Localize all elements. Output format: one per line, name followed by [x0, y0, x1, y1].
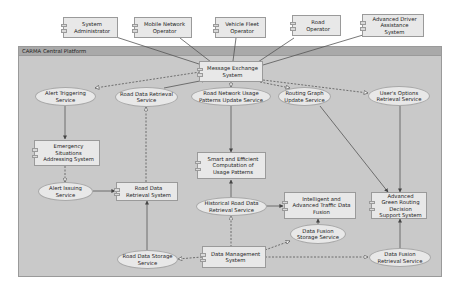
line-mno-mes	[180, 38, 211, 62]
line-dms-fusionstorage	[265, 241, 290, 250]
line-sysadmin-mes	[116, 37, 199, 64]
component-port-icon	[197, 68, 203, 72]
component-port-icon	[32, 155, 38, 159]
actor-system-administrator[interactable]: System Administrator	[63, 17, 118, 38]
service-alert-triggering[interactable]: Alert Triggering Service	[35, 87, 96, 106]
component-intelligent-traffic-data-fusion[interactable]: Intelligent and Advanced Traffic Data Fu…	[284, 192, 356, 219]
component-port-icon	[290, 27, 296, 31]
component-emergency-situations-addressing-system[interactable]: Emergency Situations Addressing System	[34, 140, 100, 166]
component-port-icon	[200, 253, 206, 257]
line-adas-mes	[263, 35, 363, 65]
service-data-fusion-storage[interactable]: Data Fusion Storage Service	[290, 224, 346, 244]
service-road-network-usage-patterns-update[interactable]: Road Network Usage Patterns Update Servi…	[191, 87, 271, 106]
service-users-options-retrieval[interactable]: User's Options Retrieval Service	[368, 86, 430, 106]
line-routinggraph-green	[320, 106, 388, 192]
component-advanced-green-routing-dss[interactable]: Advanced Green Routing Decision Support …	[371, 192, 427, 219]
component-port-icon	[114, 193, 120, 197]
line-roadop-mes	[258, 38, 294, 62]
component-port-icon	[282, 201, 288, 205]
component-port-icon	[282, 208, 288, 212]
actor-road-operator[interactable]: Road Operator	[292, 15, 341, 36]
component-port-icon	[360, 27, 366, 31]
component-port-icon	[61, 29, 67, 33]
component-port-icon	[213, 24, 219, 28]
component-port-icon	[132, 29, 138, 33]
line-mes-alerttrig	[95, 72, 200, 88]
service-alert-issuing[interactable]: Alert Issuing Service	[38, 182, 93, 201]
service-road-data-storage[interactable]: Road Data Storage Service	[117, 250, 178, 269]
component-port-icon	[132, 24, 138, 28]
component-port-icon	[360, 21, 366, 25]
component-port-icon	[213, 29, 219, 33]
component-port-icon	[197, 73, 203, 77]
service-historical-road-data-retrieval[interactable]: Historical Road Data Retrieval Service	[196, 197, 267, 216]
service-road-data-retrieval[interactable]: Road Data Retrieval Service	[115, 87, 178, 107]
component-message-exchange-system[interactable]: Message Exchange System	[199, 61, 263, 82]
component-port-icon	[114, 188, 120, 192]
component-port-icon	[32, 148, 38, 152]
component-port-icon	[369, 208, 375, 212]
component-port-icon	[195, 168, 201, 172]
component-port-icon	[61, 24, 67, 28]
component-port-icon	[195, 161, 201, 165]
component-smart-efficient-computation[interactable]: Smart and Efficient Computation of Usage…	[197, 152, 266, 179]
actor-mobile-network-operator[interactable]: Mobile Network Operator	[134, 17, 192, 38]
component-road-data-retrieval-system[interactable]: Road Data Retrieval System	[116, 182, 178, 201]
line-dms-rdstorage	[178, 257, 202, 259]
service-data-fusion-retrieval[interactable]: Data Fusion Retrieval Service	[369, 248, 431, 267]
line-vfo-mes	[233, 38, 236, 61]
actor-advanced-driver-assistance-system[interactable]: Advanced Driver Assistance System	[362, 14, 424, 37]
component-diagram: CARMA Central Platform	[0, 0, 459, 290]
actor-vehicle-fleet-operator[interactable]: Vehicle Fleet Operator	[215, 17, 266, 38]
service-routing-graph-update[interactable]: Routing Graph Update Service	[278, 87, 331, 106]
component-data-management-system[interactable]: Data Management System	[202, 246, 266, 268]
component-port-icon	[200, 259, 206, 263]
component-port-icon	[369, 201, 375, 205]
component-port-icon	[290, 22, 296, 26]
